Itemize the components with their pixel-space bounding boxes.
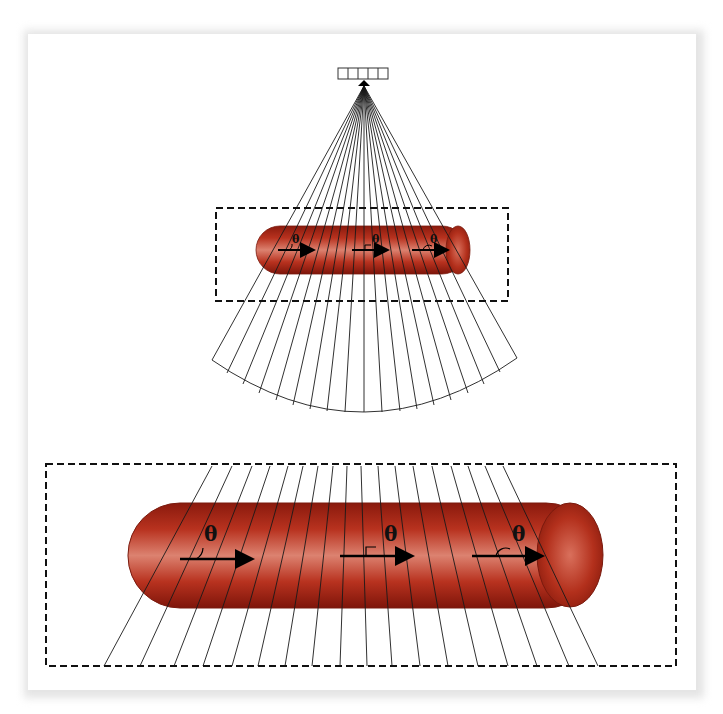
theta-label-obtuse: θ xyxy=(512,522,525,546)
theta-label-top-3: θ xyxy=(430,233,437,246)
theta-label-top-2: θ xyxy=(372,233,379,246)
diagram-canvas: θ θ θ θ xyxy=(0,0,723,714)
theta-label-top-1: θ xyxy=(292,233,299,246)
theta-label-acute: θ xyxy=(204,522,217,546)
theta-label-right: θ xyxy=(384,522,397,546)
transducer-array xyxy=(338,68,388,86)
